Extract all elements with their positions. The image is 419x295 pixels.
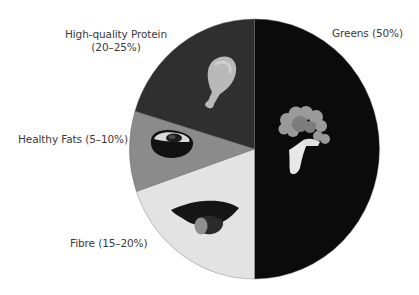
label-fats: Healthy Fats (5–10%) xyxy=(18,133,128,146)
label-fibre: Fibre (15–20%) xyxy=(70,237,147,250)
label-protein-range: (20–25%) xyxy=(62,41,170,54)
label-greens: Greens (50%) xyxy=(332,27,403,40)
label-protein: High-quality Protein (20–25%) xyxy=(62,28,170,54)
label-protein-name: High-quality Protein xyxy=(62,28,170,41)
pie-slice-greens xyxy=(255,19,380,279)
